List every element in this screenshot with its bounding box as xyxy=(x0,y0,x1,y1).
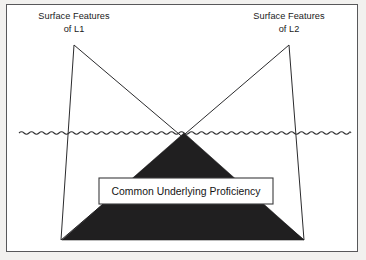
left-label-line1: Surface Features xyxy=(38,11,110,21)
right-label-line1: Surface Features xyxy=(253,11,325,21)
right-label: Surface Features of L2 xyxy=(253,11,325,34)
left-label: Surface Features of L1 xyxy=(38,11,110,34)
right-label-line2: of L2 xyxy=(279,24,300,34)
surface-waterline xyxy=(19,132,351,134)
cup-box-label: Common Underlying Proficiency xyxy=(112,186,262,197)
right-triangle-outer-leg xyxy=(289,45,304,240)
diagram-canvas: Surface Features of L1 Surface Features … xyxy=(0,0,366,260)
left-label-line2: of L1 xyxy=(64,24,85,34)
figure-root: Surface Features of L1 Surface Features … xyxy=(0,0,366,260)
left-triangle-outer-leg xyxy=(61,45,74,240)
common-underlying-proficiency-box: Common Underlying Proficiency xyxy=(99,178,273,204)
